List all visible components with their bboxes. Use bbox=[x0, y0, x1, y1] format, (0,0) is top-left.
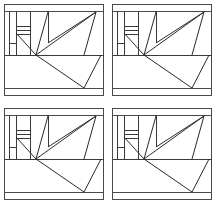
panel-bottom-left[interactable] bbox=[0, 104, 108, 208]
outer-frame bbox=[113, 5, 212, 96]
bottom-band bbox=[113, 193, 212, 200]
panel-top-right[interactable] bbox=[108, 0, 216, 104]
bottom-band bbox=[5, 89, 104, 96]
panel-grid bbox=[0, 0, 216, 208]
panel-bottom-right[interactable] bbox=[108, 104, 216, 208]
top-band bbox=[5, 5, 104, 12]
top-band bbox=[113, 5, 212, 12]
outer-frame bbox=[113, 109, 212, 200]
bottom-band bbox=[5, 193, 104, 200]
panel-top-left[interactable] bbox=[0, 0, 108, 104]
wireframe-drawing bbox=[108, 0, 216, 104]
wireframe-drawing bbox=[108, 104, 216, 208]
wireframe-drawing bbox=[0, 0, 108, 104]
bottom-band bbox=[113, 89, 212, 96]
wireframe-drawing bbox=[0, 104, 108, 208]
outer-frame bbox=[5, 109, 104, 200]
outer-frame bbox=[5, 5, 104, 96]
top-band bbox=[113, 109, 212, 116]
top-band bbox=[5, 109, 104, 116]
